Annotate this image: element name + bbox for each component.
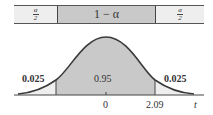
tick-label-critical: 2.09 xyxy=(146,99,164,110)
tick-label-zero: 0 xyxy=(103,99,108,110)
right-tail-area-label: 0.025 xyxy=(164,73,187,84)
t-distribution-plot xyxy=(0,0,213,115)
x-axis-label: t xyxy=(194,99,197,110)
center-area-label: 0.95 xyxy=(94,73,112,84)
left-tail-area-label: 0.025 xyxy=(22,73,45,84)
center-area xyxy=(56,37,155,95)
